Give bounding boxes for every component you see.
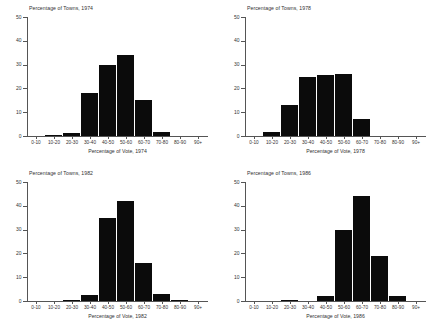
x-axis-tick	[144, 136, 145, 139]
plot-title: Percentage of Towns, 1986	[247, 170, 311, 176]
x-axis-tick	[326, 136, 327, 139]
histogram-bar	[117, 201, 135, 301]
x-axis-tick-label: 60-70	[356, 305, 368, 310]
histogram-bar	[81, 295, 99, 301]
x-axis-tick-label: 0-10	[31, 305, 40, 310]
histogram-bar	[353, 119, 371, 136]
x-axis-tick	[90, 136, 91, 139]
x-axis-tick	[416, 136, 417, 139]
x-axis-tick	[198, 136, 199, 139]
y-axis-tick-label: 10	[16, 109, 22, 115]
y-axis-tick-label: 0	[19, 133, 22, 139]
y-axis-tick-label: 50	[16, 14, 22, 20]
x-axis-tick	[344, 136, 345, 139]
histogram-bar	[389, 296, 407, 301]
histogram-bar	[63, 300, 81, 301]
x-axis-tick-label: 60-70	[138, 305, 150, 310]
x-axis-tick-label: 10-20	[266, 305, 278, 310]
histogram-bar	[371, 256, 389, 301]
x-axis-tick	[398, 136, 399, 139]
x-axis-tick-label: 10-20	[48, 305, 60, 310]
x-axis-tick	[380, 136, 381, 139]
y-axis-tick-label: 10	[234, 109, 240, 115]
histogram-bar	[353, 196, 371, 301]
histogram-bar	[335, 230, 353, 301]
x-axis-tick	[162, 136, 163, 139]
x-axis-tick	[254, 136, 255, 139]
x-axis-tick-label: 90+	[194, 305, 202, 310]
y-axis-tick-label: 0	[237, 133, 240, 139]
x-axis-tick	[362, 136, 363, 139]
y-axis-tick-label: 20	[234, 250, 240, 256]
y-axis-tick-label: 50	[16, 179, 22, 185]
x-axis-tick-label: 50-60	[120, 305, 132, 310]
y-axis-tick-label: 40	[16, 37, 22, 43]
histogram-bar	[317, 296, 335, 301]
x-axis-tick-label: 80-90	[174, 305, 186, 310]
x-axis-tick	[90, 301, 91, 304]
x-axis-tick-label: 20-30	[66, 305, 78, 310]
x-axis-tick-label: 30-40	[302, 305, 314, 310]
x-axis-tick	[54, 301, 55, 304]
x-axis-tick	[308, 136, 309, 139]
y-axis-tick-label: 20	[234, 85, 240, 91]
y-axis-tick: 0	[241, 301, 246, 302]
y-axis-tick-label: 30	[234, 61, 240, 67]
bar-series	[27, 182, 207, 301]
histogram-bar	[263, 132, 281, 136]
x-axis-tick-label: 50-60	[120, 140, 132, 145]
x-axis-tick-label: 40-50	[320, 305, 332, 310]
x-axis-tick-label: 60-70	[356, 140, 368, 145]
histogram-bar	[171, 300, 189, 301]
y-axis-tick-label: 40	[234, 37, 240, 43]
x-axis-tick-label: 80-90	[174, 140, 186, 145]
histogram-bar	[335, 74, 353, 136]
x-axis-tick-label: 90+	[194, 140, 202, 145]
x-axis-tick	[290, 301, 291, 304]
y-axis-tick: 0	[23, 136, 28, 137]
x-axis-tick	[180, 301, 181, 304]
x-axis-tick-label: 80-90	[392, 305, 404, 310]
y-axis-tick-label: 30	[234, 226, 240, 232]
bar-series	[27, 17, 207, 136]
histogram-bar	[135, 100, 153, 136]
y-axis-tick-label: 50	[234, 14, 240, 20]
histogram-bar	[63, 133, 81, 136]
x-axis-tick	[362, 301, 363, 304]
x-axis-tick-label: 80-90	[392, 140, 404, 145]
histogram-bar	[153, 132, 171, 136]
x-axis-tick	[126, 301, 127, 304]
x-axis-label: Percentage of Vote, 1982	[27, 313, 208, 319]
x-axis-tick-label: 50-60	[338, 140, 350, 145]
histogram-grid: Percentage of Towns, 1974010203040500-10…	[0, 0, 436, 329]
x-axis-tick	[180, 136, 181, 139]
plot-title: Percentage of Towns, 1978	[247, 5, 311, 11]
x-axis-tick-label: 20-30	[284, 305, 296, 310]
histogram-bar	[117, 55, 135, 136]
x-axis-tick	[254, 301, 255, 304]
plot-title: Percentage of Towns, 1982	[29, 170, 93, 176]
y-axis-tick-label: 30	[16, 61, 22, 67]
y-axis-tick-label: 20	[16, 250, 22, 256]
histogram-bar	[153, 294, 171, 301]
x-axis-tick	[108, 301, 109, 304]
x-axis-tick	[126, 136, 127, 139]
x-axis-tick-label: 10-20	[266, 140, 278, 145]
histogram-bar	[81, 93, 99, 136]
x-axis-tick-label: 30-40	[302, 140, 314, 145]
histogram-panel: Percentage of Towns, 1974010203040500-10…	[0, 0, 218, 164]
histogram-bar	[281, 105, 299, 136]
x-axis-tick	[272, 136, 273, 139]
histogram-panel: Percentage of Towns, 1986010203040500-10…	[218, 165, 436, 329]
x-axis-tick-label: 70-80	[156, 140, 168, 145]
x-axis-tick-label: 30-40	[84, 140, 96, 145]
y-axis-tick-label: 40	[16, 202, 22, 208]
x-axis-tick	[272, 301, 273, 304]
y-axis-tick-label: 10	[16, 274, 22, 280]
histogram-panel: Percentage of Towns, 1982010203040500-10…	[0, 165, 218, 329]
x-axis-tick-label: 60-70	[138, 140, 150, 145]
x-axis-tick	[416, 301, 417, 304]
x-axis-label: Percentage of Vote, 1986	[245, 313, 426, 319]
x-axis-tick	[308, 301, 309, 304]
x-axis-tick-label: 70-80	[156, 305, 168, 310]
